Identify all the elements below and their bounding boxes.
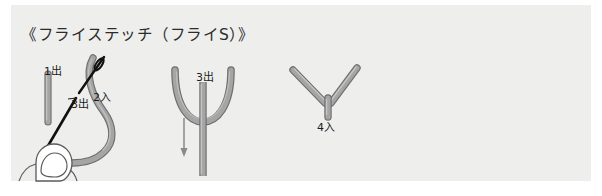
v-arm-right xyxy=(331,67,357,103)
thread-stub-1de xyxy=(47,74,48,122)
diagram-canvas xyxy=(0,0,602,196)
label-3de-left: 3出 xyxy=(71,95,89,111)
step-1-group xyxy=(19,57,112,181)
label-4iri: 4入 xyxy=(317,118,335,134)
label-1de: 1出 xyxy=(44,62,62,78)
label-3de-middle: 3出 xyxy=(196,68,214,84)
down-arrow-icon xyxy=(181,118,188,157)
step-2-group xyxy=(175,70,231,176)
step-3-group xyxy=(293,67,357,117)
v-arm-left xyxy=(293,69,325,103)
vertical-thread xyxy=(201,82,203,176)
label-2iri: 2入 xyxy=(93,88,111,104)
tail-stitch xyxy=(327,98,328,117)
hand-fingertip xyxy=(19,144,77,181)
fly-stitch-instruction-figure: 《フライステッチ（フライS）》 xyxy=(0,0,602,196)
